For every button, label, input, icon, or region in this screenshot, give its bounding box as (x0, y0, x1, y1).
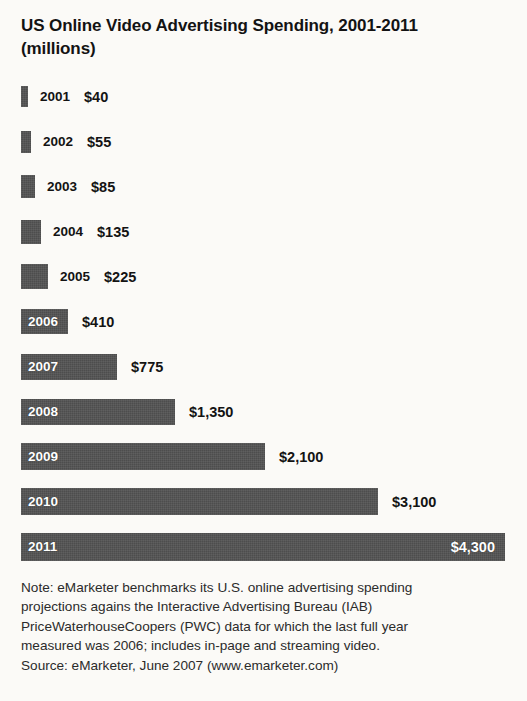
bar-row: 2008$1,350 (0, 389, 527, 434)
bar-value-label: $85 (91, 179, 115, 195)
bar-2002[interactable] (21, 131, 31, 153)
bar-2003[interactable] (21, 175, 35, 198)
note-line: PriceWaterhouseCoopers (PWC) data for wh… (21, 617, 501, 636)
bar-row: 2001$40 (0, 74, 527, 119)
note-line: Note: eMarketer benchmarks its U.S. onli… (21, 578, 501, 597)
bar-value-label: $775 (131, 359, 163, 375)
chart-footnote: Note: eMarketer benchmarks its U.S. onli… (21, 578, 501, 675)
bar-track: 2009$2,100 (21, 434, 323, 479)
bar-year-label: 2011 (21, 539, 57, 554)
bar-year-label: 2005 (60, 269, 90, 284)
bar-value-label: $225 (104, 269, 136, 285)
source-line: Source: eMarketer, June 2007 (www.emarke… (21, 656, 501, 675)
bar-track: 2006$410 (21, 299, 114, 344)
bar-value-label: $2,100 (279, 449, 323, 465)
bar-row: 2009$2,100 (0, 434, 527, 479)
bar-year-label: 2003 (47, 179, 77, 194)
bar-2009[interactable]: 2009 (21, 443, 265, 470)
bar-2011[interactable]: 2011$4,300 (21, 533, 505, 561)
bar-row: 2005$225 (0, 254, 527, 299)
bar-2008[interactable]: 2008 (21, 399, 175, 425)
bar-track: 2008$1,350 (21, 389, 233, 434)
bar-track: 2004$135 (21, 209, 129, 254)
note-line: projections agains the Interactive Adver… (21, 597, 501, 616)
bar-track: 2007$775 (21, 344, 163, 389)
bar-row: 2011$4,300 (0, 524, 527, 569)
bar-row: 2002$55 (0, 119, 527, 164)
bar-value-label: $410 (82, 314, 114, 330)
bar-row: 2004$135 (0, 209, 527, 254)
bar-track: 2011$4,300 (21, 524, 505, 569)
note-line: measured was 2006; includes in-page and … (21, 636, 501, 655)
bar-row: 2003$85 (0, 164, 527, 209)
bar-value-label: $1,350 (189, 404, 233, 420)
bar-row: 2007$775 (0, 344, 527, 389)
bar-2006[interactable]: 2006 (21, 309, 68, 334)
bar-2010[interactable]: 2010 (21, 488, 378, 515)
bar-year-label: 2008 (21, 404, 58, 419)
bar-year-label: 2007 (21, 359, 58, 374)
bar-2001[interactable] (21, 86, 28, 107)
bar-value-label: $3,100 (392, 494, 436, 510)
bar-year-label: 2009 (21, 449, 58, 464)
bar-track: 2005$225 (21, 254, 136, 299)
bar-value-label: $135 (97, 224, 129, 240)
bar-track: 2002$55 (21, 119, 111, 164)
bar-track: 2001$40 (21, 74, 108, 119)
bar-row: 2010$3,100 (0, 479, 527, 524)
bar-chart: 2001$402002$552003$852004$1352005$225200… (0, 74, 527, 569)
bar-year-label: 2004 (53, 224, 83, 239)
bar-year-label: 2006 (21, 314, 58, 329)
bar-year-label: 2010 (21, 494, 58, 509)
bar-value-label: $4,300 (451, 539, 505, 555)
bar-2005[interactable] (21, 264, 48, 289)
bar-row: 2006$410 (0, 299, 527, 344)
bar-2004[interactable] (21, 220, 41, 244)
chart-page: US Online Video Advertising Spending, 20… (0, 0, 527, 701)
bar-year-label: 2002 (43, 134, 73, 149)
bar-year-label: 2001 (40, 89, 70, 104)
bar-value-label: $40 (84, 89, 108, 105)
bar-track: 2010$3,100 (21, 479, 436, 524)
bar-2007[interactable]: 2007 (21, 354, 117, 380)
page-title: US Online Video Advertising Spending, 20… (21, 14, 491, 60)
bar-track: 2003$85 (21, 164, 115, 209)
bar-value-label: $55 (87, 134, 111, 150)
